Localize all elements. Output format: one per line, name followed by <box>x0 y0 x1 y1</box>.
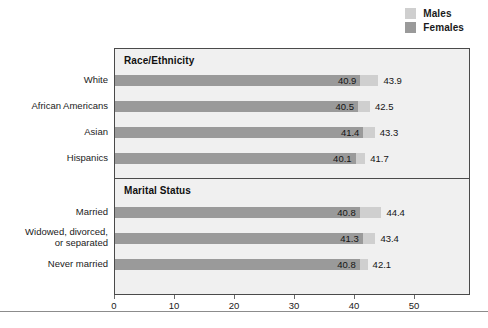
category-label: White <box>0 74 108 85</box>
bar-row: 40.842.1 <box>115 259 471 270</box>
bar-value-females: 41.3 <box>333 233 359 244</box>
category-label-line: Asian <box>0 126 108 137</box>
bar-females <box>115 259 360 270</box>
bar-females <box>115 75 360 86</box>
category-label: Hispanics <box>0 152 108 163</box>
bar-females <box>115 101 358 112</box>
bar-value-males: 43.4 <box>380 233 399 244</box>
category-label-line: Widowed, divorced, <box>0 226 108 237</box>
x-axis-tick <box>354 295 355 299</box>
x-axis-tick-label: 20 <box>229 300 240 311</box>
x-axis-tick <box>414 295 415 299</box>
plot-area: Race/Ethnicity Marital Status 40.943.940… <box>114 48 470 295</box>
x-axis-tick-label: 40 <box>349 300 360 311</box>
legend-label-females: Females <box>423 22 464 33</box>
bar-row: 41.343.4 <box>115 233 471 244</box>
category-axis-labels: WhiteAfrican AmericansAsianHispanicsMarr… <box>0 48 108 295</box>
category-label-line: African Americans <box>0 100 108 111</box>
x-axis-tick <box>234 295 235 299</box>
bar-value-males: 42.5 <box>375 101 394 112</box>
bar-row: 40.542.5 <box>115 101 471 112</box>
bar-row: 40.141.7 <box>115 153 471 164</box>
category-label-line: White <box>0 74 108 85</box>
section-divider <box>115 178 469 179</box>
category-label: Widowed, divorced,or separated <box>0 226 108 248</box>
bar-value-males: 41.7 <box>370 153 389 164</box>
bar-value-females: 40.1 <box>326 153 352 164</box>
bar-females <box>115 233 363 244</box>
chart-legend: Males Females <box>405 8 464 33</box>
legend-item-females: Females <box>405 22 464 33</box>
legend-label-males: Males <box>423 8 451 19</box>
x-axis-tick-label: 50 <box>409 300 420 311</box>
x-axis-tick <box>114 295 115 299</box>
category-label-line: or separated <box>0 237 108 248</box>
legend-swatch-males-icon <box>405 8 416 19</box>
bar-value-males: 42.1 <box>373 259 392 270</box>
bar-value-females: 40.9 <box>330 75 356 86</box>
bar-value-females: 40.5 <box>328 101 354 112</box>
bar-row: 40.943.9 <box>115 75 471 86</box>
bar-value-males: 43.9 <box>383 75 402 86</box>
bar-row: 40.844.4 <box>115 207 471 218</box>
bar-value-females: 40.8 <box>330 207 356 218</box>
chart-page: Males Females WhiteAfrican AmericansAsia… <box>0 0 488 328</box>
category-label: African Americans <box>0 100 108 111</box>
category-label-line: Hispanics <box>0 152 108 163</box>
legend-swatch-females-icon <box>405 22 416 33</box>
bar-females <box>115 127 363 138</box>
footer-divider <box>0 311 488 312</box>
x-axis-tick-label: 0 <box>111 300 116 311</box>
category-label-line: Married <box>0 206 108 217</box>
bar-females <box>115 153 356 164</box>
category-label-line: Never married <box>0 258 108 269</box>
legend-item-males: Males <box>405 8 464 19</box>
category-label: Married <box>0 206 108 217</box>
x-axis-tick-label: 10 <box>169 300 180 311</box>
category-label: Asian <box>0 126 108 137</box>
x-axis-tick <box>174 295 175 299</box>
x-axis-tick <box>294 295 295 299</box>
section-title-marital-status: Marital Status <box>124 185 191 196</box>
bar-value-males: 43.3 <box>380 127 399 138</box>
bar-row: 41.443.3 <box>115 127 471 138</box>
category-label: Never married <box>0 258 108 269</box>
bar-value-males: 44.4 <box>386 207 405 218</box>
bar-value-females: 40.8 <box>330 259 356 270</box>
bar-value-females: 41.4 <box>333 127 359 138</box>
bar-females <box>115 207 360 218</box>
x-axis: 01020304050 <box>114 295 470 319</box>
section-title-race-ethnicity: Race/Ethnicity <box>124 55 194 66</box>
x-axis-tick-label: 30 <box>289 300 300 311</box>
